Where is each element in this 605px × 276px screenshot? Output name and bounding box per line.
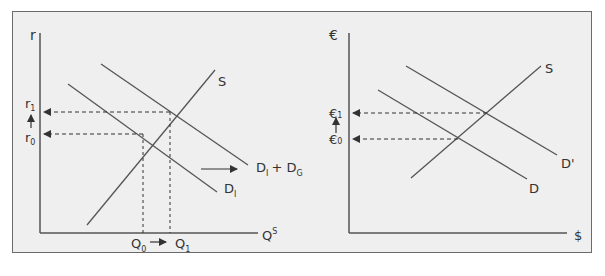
left-panel: r QS S DI DI+ DG r1 r0 Q0 Q1: [25, 27, 303, 254]
e0-label: €0: [329, 132, 342, 147]
left-y-axis-label: r: [30, 27, 36, 43]
diagram-canvas: r QS S DI DI+ DG r1 r0 Q0 Q1 € $ S D D' …: [0, 0, 605, 276]
left-supply-label: S: [218, 74, 226, 89]
right-demand-d-label: D: [529, 181, 539, 196]
e1-label: €1: [329, 106, 342, 121]
left-demand-di-label: DI: [224, 181, 236, 199]
r0-label: r0: [25, 130, 35, 147]
right-demand-d-curve: [378, 90, 527, 179]
left-demand-di-curve: [68, 84, 217, 192]
left-supply-curve: [87, 70, 215, 225]
right-demand-dprime-curve: [406, 66, 557, 155]
left-demand-di-dg-label: DI+ DG: [256, 160, 303, 178]
right-supply-label: S: [545, 61, 553, 76]
r1-label: r1: [25, 96, 35, 113]
right-x-axis-label: $: [574, 228, 582, 243]
left-x-axis-label: QS: [262, 227, 277, 243]
q0-label: Q0: [131, 236, 146, 254]
right-panel: € $ S D D' €1 €0: [329, 27, 582, 243]
right-demand-dprime-label: D': [561, 156, 575, 171]
right-y-axis-label: €: [329, 27, 338, 43]
q1-label: Q1: [175, 236, 190, 254]
